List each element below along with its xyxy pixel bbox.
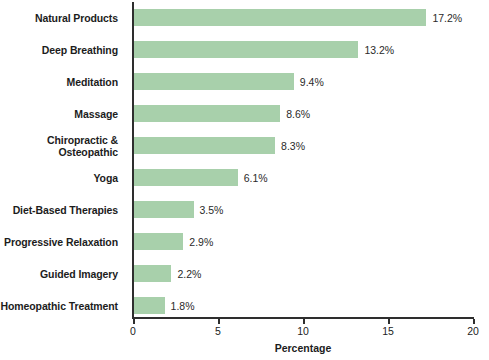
bar-value-label: 9.4% bbox=[300, 66, 324, 98]
category-label: Massage bbox=[0, 98, 126, 130]
x-tick-mark bbox=[133, 319, 135, 324]
category-label-line: Yoga bbox=[94, 172, 119, 185]
bar-value-label: 3.5% bbox=[200, 194, 224, 226]
category-label: Deep Breathing bbox=[0, 34, 126, 66]
x-tick-label: 5 bbox=[198, 325, 238, 337]
x-tick-mark bbox=[473, 319, 475, 324]
bar bbox=[134, 105, 280, 122]
bar-row: Meditation9.4% bbox=[0, 66, 489, 98]
category-label-line: Homeopathic Treatment bbox=[0, 300, 118, 313]
category-label: Chiropractic &Osteopathic bbox=[0, 130, 126, 162]
x-axis-title: Percentage bbox=[132, 342, 474, 354]
bar-row: Yoga6.1% bbox=[0, 162, 489, 194]
bar-value-label: 6.1% bbox=[244, 162, 268, 194]
x-tick-label: 10 bbox=[283, 325, 323, 337]
chart-plot-area: Natural Products17.2%Deep Breathing13.2%… bbox=[0, 0, 489, 318]
category-label-line: Massage bbox=[74, 108, 118, 121]
bar bbox=[134, 73, 294, 90]
category-label: Guided Imagery bbox=[0, 258, 126, 290]
category-label-line: Osteopathic bbox=[58, 146, 118, 159]
bar bbox=[134, 297, 165, 314]
category-label: Natural Products bbox=[0, 2, 126, 34]
category-label-line: Guided Imagery bbox=[40, 268, 118, 281]
bar bbox=[134, 233, 183, 250]
x-tick-mark bbox=[218, 319, 220, 324]
bar bbox=[134, 169, 238, 186]
category-label-line: Chiropractic & bbox=[47, 134, 118, 147]
bar-row: Guided Imagery2.2% bbox=[0, 258, 489, 290]
bar-value-label: 17.2% bbox=[432, 2, 462, 34]
bar-row: Natural Products17.2% bbox=[0, 2, 489, 34]
category-label-line: Meditation bbox=[67, 76, 119, 89]
bar-value-label: 8.6% bbox=[286, 98, 310, 130]
x-tick-mark bbox=[303, 319, 305, 324]
category-label: Homeopathic Treatment bbox=[0, 290, 126, 322]
bar bbox=[134, 265, 171, 282]
x-tick-mark bbox=[388, 319, 390, 324]
x-tick-label: 15 bbox=[368, 325, 408, 337]
bar-row: Progressive Relaxation2.9% bbox=[0, 226, 489, 258]
bar bbox=[134, 137, 275, 154]
bar-row: Massage8.6% bbox=[0, 98, 489, 130]
bar-row: Chiropractic &Osteopathic8.3% bbox=[0, 130, 489, 162]
bar-value-label: 2.2% bbox=[177, 258, 201, 290]
category-label: Diet-Based Therapies bbox=[0, 194, 126, 226]
y-axis-line bbox=[132, 2, 134, 318]
category-label-line: Diet-Based Therapies bbox=[13, 204, 118, 217]
bar bbox=[134, 41, 358, 58]
bar-row: Deep Breathing13.2% bbox=[0, 34, 489, 66]
bar-value-label: 13.2% bbox=[364, 34, 394, 66]
bar bbox=[134, 201, 194, 218]
x-tick-label: 0 bbox=[113, 325, 153, 337]
category-label: Yoga bbox=[0, 162, 126, 194]
category-label-line: Progressive Relaxation bbox=[4, 236, 118, 249]
category-label-line: Natural Products bbox=[35, 12, 118, 25]
bar-value-label: 8.3% bbox=[281, 130, 305, 162]
bar-row: Diet-Based Therapies3.5% bbox=[0, 194, 489, 226]
bar-value-label: 2.9% bbox=[189, 226, 213, 258]
bar bbox=[134, 9, 426, 26]
bar-chart: Natural Products17.2%Deep Breathing13.2%… bbox=[0, 0, 489, 360]
x-tick-label: 20 bbox=[453, 325, 489, 337]
category-label: Progressive Relaxation bbox=[0, 226, 126, 258]
category-label: Meditation bbox=[0, 66, 126, 98]
category-label-line: Deep Breathing bbox=[42, 44, 118, 57]
